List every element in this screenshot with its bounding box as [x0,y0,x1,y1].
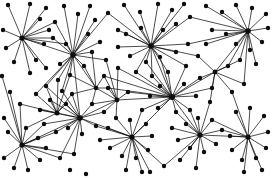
graph-node[interactable] [98,138,102,142]
graph-node[interactable] [254,62,258,66]
graph-node[interactable] [38,17,42,21]
graph-node[interactable] [129,134,134,139]
graph-node[interactable] [58,156,62,160]
graph-node[interactable] [66,126,70,130]
graph-node[interactable] [53,20,57,24]
graph-node[interactable] [210,118,214,122]
graph-node[interactable] [150,134,154,138]
graph-node[interactable] [42,122,46,126]
graph-node[interactable] [198,76,202,80]
graph-node[interactable] [0,74,4,78]
graph-node[interactable] [166,70,170,74]
graph-node[interactable] [148,170,152,174]
graph-node[interactable] [213,70,218,75]
graph-node[interactable] [51,36,55,40]
graph-node[interactable] [148,43,154,49]
graph-node[interactable] [170,8,174,12]
graph-node[interactable] [260,168,264,172]
graph-node[interactable] [94,124,98,128]
graph-node[interactable] [70,92,74,96]
graph-node[interactable] [182,2,186,6]
graph-node[interactable] [58,62,62,66]
graph-node[interactable] [156,106,160,110]
graph-node[interactable] [120,154,124,158]
graph-node[interactable] [156,2,160,6]
graph-node[interactable] [128,118,132,122]
graph-node[interactable] [12,166,16,170]
graph-node[interactable] [242,82,246,86]
graph-node[interactable] [24,126,28,130]
graph-node[interactable] [169,94,175,100]
graph-node[interactable] [230,148,234,152]
graph-node[interactable] [234,110,238,114]
graph-node[interactable] [124,168,128,172]
graph-node[interactable] [245,134,250,139]
graph-node[interactable] [6,3,10,7]
graph-node[interactable] [144,60,148,64]
graph-node[interactable] [210,28,214,32]
graph-node[interactable] [260,40,264,44]
graph-node[interactable] [174,22,178,26]
graph-node[interactable] [116,45,120,49]
graph-node[interactable] [197,132,202,137]
graph-node[interactable] [8,90,12,94]
graph-node[interactable] [139,26,143,30]
graph-node[interactable] [84,172,88,176]
graph-node[interactable] [234,3,238,7]
graph-node[interactable] [48,98,52,102]
graph-node[interactable] [44,6,48,10]
graph-node[interactable] [86,32,90,36]
graph-node[interactable] [146,148,150,152]
graph-node[interactable] [115,98,120,103]
graph-node[interactable] [64,42,68,46]
graph-node[interactable] [114,116,118,120]
graph-node[interactable] [108,146,112,150]
graph-node[interactable] [1,28,5,32]
graph-node[interactable] [106,126,110,130]
graph-node[interactable] [266,130,270,134]
graph-node[interactable] [2,156,6,160]
graph-node[interactable] [184,64,188,68]
graph-node[interactable] [82,64,86,68]
graph-node[interactable] [188,146,192,150]
graph-node[interactable] [202,150,206,154]
graph-node[interactable] [174,110,178,114]
graph-node[interactable] [47,28,51,32]
graph-node[interactable] [178,158,182,162]
graph-node[interactable] [208,100,212,104]
graph-node[interactable] [28,2,32,6]
graph-node[interactable] [134,156,138,160]
graph-node[interactable] [70,52,76,58]
graph-node[interactable] [124,32,128,36]
graph-node[interactable] [55,111,60,116]
graph-node[interactable] [80,132,84,136]
graph-node[interactable] [250,6,254,10]
graph-node[interactable] [44,66,48,70]
graph-node[interactable] [116,66,120,70]
graph-node[interactable] [19,142,24,147]
graph-node[interactable] [226,64,230,68]
graph-node[interactable] [34,58,38,62]
graph-node[interactable] [6,130,10,134]
graph-node[interactable] [170,126,174,130]
graph-node[interactable] [122,3,126,7]
graph-node[interactable] [138,10,142,14]
graph-node[interactable] [102,74,106,78]
graph-node[interactable] [4,46,8,50]
graph-node[interactable] [76,12,80,16]
graph-node[interactable] [230,90,234,94]
graph-node[interactable] [174,50,178,54]
graph-node[interactable] [38,108,42,112]
graph-node[interactable] [158,84,162,88]
graph-node[interactable] [93,18,97,22]
graph-node[interactable] [228,134,232,138]
graph-node[interactable] [42,42,46,46]
graph-node[interactable] [36,136,40,140]
graph-node[interactable] [90,102,94,106]
graph-node[interactable] [262,114,266,118]
graph-node[interactable] [34,92,38,96]
graph-node[interactable] [106,86,110,90]
graph-node[interactable] [28,71,32,75]
graph-node[interactable] [234,42,238,46]
graph-node[interactable] [68,73,72,77]
